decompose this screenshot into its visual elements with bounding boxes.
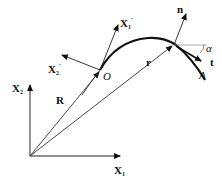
x1-prime-axis [100,25,118,70]
trajectory-curve [100,38,205,80]
x1-prime-label: X1′ [120,16,133,30]
n-vector [174,14,186,45]
x2-prime-axis [62,55,100,70]
n-label: n [177,3,183,15]
x2-prime-label: X2′ [48,62,61,76]
diagram-canvas: X2 X1 R r O A n t α X1′ X2′ [0,0,222,187]
r-label: r [146,56,151,68]
t-label: t [210,56,214,68]
R-label: R [56,94,65,106]
diagram-svg: X2 X1 R r O A n t α X1′ X2′ [0,0,222,187]
A-label: A [198,69,206,81]
alpha-label: α [206,42,212,54]
O-label: O [103,70,111,82]
x1-label: X1 [114,164,125,177]
curve-extension [82,70,100,95]
x2-label: X2 [12,82,23,95]
alpha-arc [200,45,204,53]
